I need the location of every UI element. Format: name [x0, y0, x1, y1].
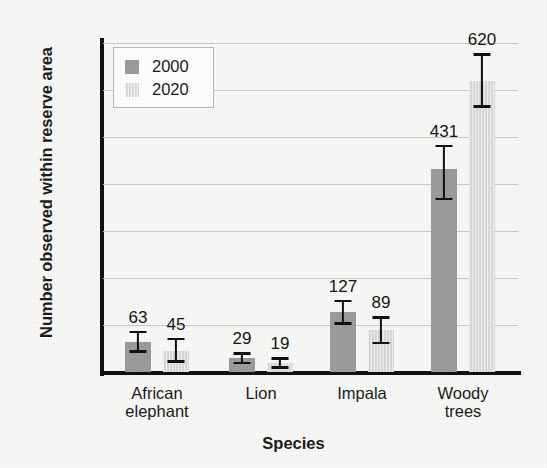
x-axis-category-label: Impala	[337, 384, 387, 402]
error-bar-cap-lower	[373, 342, 390, 344]
error-bar-cap-lower	[436, 198, 453, 200]
error-bar-cap-upper	[168, 338, 185, 340]
y-axis-title: Number observed within reserve area	[37, 13, 56, 373]
cropped-title-sliver	[110, 0, 440, 4]
x-axis-category-label: African elephant	[125, 384, 188, 421]
bar-value-label: 19	[271, 334, 290, 354]
bar-value-label: 620	[468, 30, 496, 50]
error-bar-line	[137, 332, 139, 352]
error-bar-line	[342, 301, 344, 323]
error-bar-cap-upper	[335, 300, 352, 302]
error-bar-cap-upper	[474, 53, 491, 55]
bar-value-label: 63	[129, 308, 148, 328]
x-axis-title: Species	[0, 434, 547, 453]
x-axis-category-label: Lion	[245, 384, 276, 402]
error-bar-line	[481, 54, 483, 106]
bar-value-label: 127	[329, 277, 357, 297]
error-bar-cap-upper	[130, 331, 147, 333]
error-bar-cap-lower	[234, 362, 251, 364]
gridline	[103, 43, 518, 44]
error-bar-cap-lower	[130, 350, 147, 352]
error-bar-line	[443, 146, 445, 199]
legend-swatch-2000	[125, 60, 139, 74]
error-bar-cap-upper	[234, 352, 251, 354]
error-bar-cap-lower	[474, 105, 491, 107]
bar-2020-woody-trees	[469, 81, 495, 372]
legend-item-2000: 2000	[125, 55, 213, 78]
bar-value-label: 431	[430, 122, 458, 142]
x-axis-category-label: Woody trees	[437, 384, 488, 421]
error-bar-cap-lower	[168, 360, 185, 362]
error-bar-cap-upper	[373, 316, 390, 318]
error-bar-cap-upper	[272, 357, 289, 359]
error-bar-line	[175, 339, 177, 361]
legend-label-2020: 2020	[152, 80, 189, 99]
bar-value-label: 29	[233, 329, 252, 349]
error-bar-cap-lower	[272, 366, 289, 368]
bar-value-label: 89	[372, 293, 391, 313]
legend-item-2020: 2020	[125, 78, 213, 101]
legend-label-2000: 2000	[152, 57, 189, 76]
legend-swatch-2020	[125, 83, 139, 97]
error-bar-line	[380, 317, 382, 342]
bar-chart-figure: Number observed within reserve area 0100…	[0, 0, 547, 468]
error-bar-cap-lower	[335, 322, 352, 324]
chart-legend: 2000 2020	[113, 47, 214, 108]
error-bar-cap-upper	[436, 145, 453, 147]
bar-value-label: 45	[167, 315, 186, 335]
